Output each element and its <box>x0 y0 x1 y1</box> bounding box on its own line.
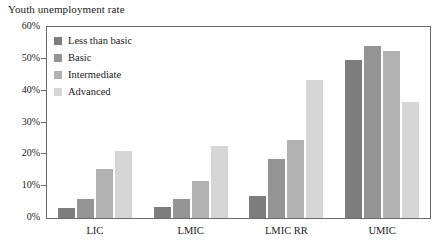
y-tick-label: 50% <box>0 53 40 63</box>
legend-label: Intermediate <box>68 69 121 80</box>
y-tick-label: 60% <box>0 21 40 31</box>
chart-figure: Youth unemployment rate 60%50%40%30%20%1… <box>0 0 438 249</box>
bar[interactable] <box>192 181 209 218</box>
bar[interactable] <box>249 196 266 218</box>
y-axis: 60%50%40%30%20%10%0% <box>0 26 40 219</box>
chart-legend: Less than basicBasicIntermediateAdvanced <box>54 32 204 100</box>
bar[interactable] <box>287 140 304 218</box>
legend-item[interactable]: Intermediate <box>54 66 204 83</box>
bar[interactable] <box>96 169 113 218</box>
legend-label: Advanced <box>68 86 111 97</box>
legend-swatch-icon <box>54 88 62 96</box>
legend-label: Less than basic <box>68 35 132 46</box>
legend-swatch-icon <box>54 71 62 79</box>
x-tick-label: LMIC <box>147 224 235 244</box>
y-tick-label: 10% <box>0 180 40 190</box>
bar[interactable] <box>402 102 419 218</box>
legend-label: Basic <box>68 52 91 63</box>
bar[interactable] <box>173 199 190 218</box>
bar[interactable] <box>58 208 75 218</box>
bar-group <box>338 27 426 218</box>
bar[interactable] <box>383 51 400 218</box>
legend-item[interactable]: Basic <box>54 49 204 66</box>
legend-swatch-icon <box>54 37 62 45</box>
bar[interactable] <box>268 159 285 218</box>
y-tick-label: 40% <box>0 85 40 95</box>
bar[interactable] <box>364 46 381 218</box>
x-tick-label: LMIC RR <box>242 224 330 244</box>
chart-title: Youth unemployment rate <box>8 2 125 16</box>
y-tick-label: 0% <box>0 212 40 222</box>
bar-group <box>242 27 330 218</box>
legend-item[interactable]: Less than basic <box>54 32 204 49</box>
bar[interactable] <box>211 146 228 218</box>
bar[interactable] <box>77 199 94 218</box>
x-axis: LICLMICLMIC RRUMIC <box>47 224 430 244</box>
bar[interactable] <box>154 207 171 218</box>
y-tick-label: 30% <box>0 117 40 127</box>
y-tick-label: 20% <box>0 148 40 158</box>
x-tick-label: LIC <box>51 224 139 244</box>
legend-item[interactable]: Advanced <box>54 83 204 100</box>
bar[interactable] <box>345 60 362 218</box>
x-tick-label: UMIC <box>338 224 426 244</box>
bar[interactable] <box>306 80 323 218</box>
bar[interactable] <box>115 151 132 218</box>
legend-swatch-icon <box>54 54 62 62</box>
